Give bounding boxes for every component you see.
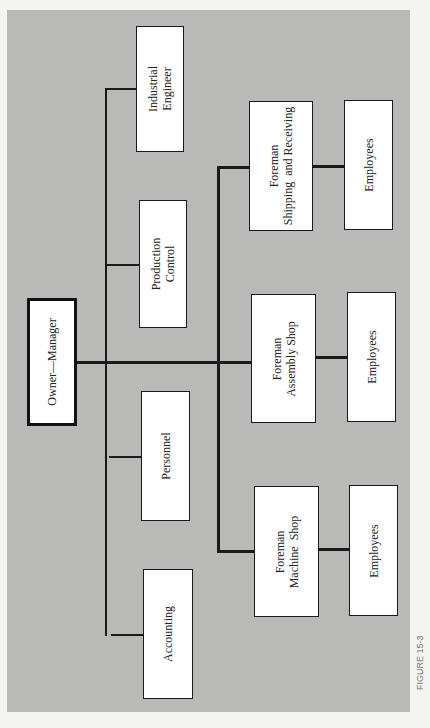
- industrial-engineer-label: Industrial Engineer: [146, 66, 174, 112]
- main-line: [76, 361, 252, 364]
- personnel-box: Personnel: [141, 391, 190, 521]
- connector-assembly-employees: [315, 356, 348, 359]
- industrial-engineer-box: Industrial Engineer: [136, 26, 184, 152]
- employees-assembly-box: Employees: [347, 292, 396, 422]
- employees-shipping-box: Employees: [344, 100, 393, 230]
- connector-personnel: [109, 456, 141, 458]
- connector-production-control: [107, 264, 139, 266]
- foreman-assembly-label: Foreman Assembly Shop: [270, 321, 298, 397]
- employees-machine-label: Employees: [367, 524, 381, 577]
- connector-shipping-employees: [312, 165, 345, 168]
- employees-shipping-label: Employees: [362, 138, 376, 191]
- owner-manager-box: Owner—Manager: [27, 298, 77, 426]
- owner-manager-label: Owner—Manager: [45, 318, 59, 405]
- connector-industrial-engineer: [105, 88, 137, 90]
- accounting-label: Accounting: [161, 606, 175, 662]
- foreman-assembly-box: Foreman Assembly Shop: [251, 294, 316, 423]
- personnel-label: Personnel: [159, 432, 173, 479]
- connector-machine: [219, 550, 255, 553]
- accounting-box: Accounting: [143, 569, 193, 699]
- connector-shipping: [217, 166, 251, 169]
- production-control-box: Production Control: [139, 200, 187, 328]
- foreman-shipping-label: Foreman Shipping and Receiving: [267, 107, 295, 225]
- connector-machine-employees: [318, 548, 350, 551]
- figure-caption: FIGURE 15-3: [415, 635, 425, 690]
- foreman-machine-box: Foreman Machine Shop: [254, 486, 319, 617]
- foreman-shipping-box: Foreman Shipping and Receiving: [249, 101, 313, 231]
- connector-accounting: [111, 634, 144, 636]
- employees-machine-box: Employees: [349, 485, 398, 616]
- employees-assembly-label: Employees: [365, 330, 379, 383]
- foreman-machine-label: Foreman Machine Shop: [273, 515, 301, 588]
- line-trunk: [217, 166, 220, 553]
- production-control-label: Production Control: [149, 238, 177, 291]
